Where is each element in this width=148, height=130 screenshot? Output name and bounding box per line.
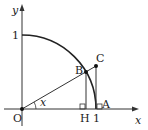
label-C: C <box>96 52 104 65</box>
angle-label: x <box>40 96 47 109</box>
label-H: H <box>80 112 90 125</box>
point-O <box>20 107 24 111</box>
x-axis-arrow-icon <box>132 107 139 112</box>
y-tick-one: 1 <box>12 29 19 42</box>
unit-circle-diagram: y x 1 1 O H A B C x <box>0 0 148 130</box>
y-axis-arrow-icon <box>20 4 25 11</box>
angle-arc <box>34 102 36 109</box>
y-axis-label: y <box>11 4 19 17</box>
label-A: A <box>101 98 111 111</box>
x-tick-one: 1 <box>93 112 100 125</box>
x-axis-label: x <box>135 114 142 127</box>
label-O: O <box>13 112 22 125</box>
point-B <box>84 70 88 74</box>
label-B: B <box>75 64 83 77</box>
right-angle-mark-H <box>80 104 85 109</box>
